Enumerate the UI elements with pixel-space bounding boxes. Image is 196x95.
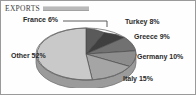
title-divider — [43, 6, 89, 11]
pie-label-other: Other 52% — [11, 52, 46, 60]
chart-header: EXPORTS — [5, 3, 191, 13]
pie-label-germany: Germany 10% — [137, 53, 183, 61]
chart-frame: EXPORTS — [0, 0, 196, 95]
pie-label-greece: Greece 9% — [134, 33, 170, 41]
pie-label-france: France 6% — [23, 16, 58, 24]
pie-label-italy: Italy 15% — [123, 75, 153, 83]
page-title: EXPORTS — [5, 4, 40, 13]
pie-label-turkey: Turkey 8% — [125, 18, 160, 26]
